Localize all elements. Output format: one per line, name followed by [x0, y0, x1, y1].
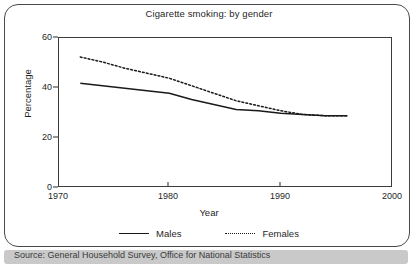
- y-axis-title: Percentage: [22, 49, 33, 139]
- plot-area: [58, 37, 392, 187]
- x-tick-label-1990: 1990: [258, 191, 302, 201]
- x-axis-title: Year: [0, 207, 418, 218]
- x-tick-label-1970: 1970: [36, 191, 80, 201]
- legend-label-females: Females: [262, 228, 298, 239]
- x-tick-label-2000: 2000: [370, 191, 414, 201]
- chart-legend: Males Females: [0, 228, 418, 239]
- source-bar: Source: General Household Survey, Office…: [4, 250, 408, 264]
- legend-entry-females: Females: [225, 228, 298, 239]
- x-tick-label-1980: 1980: [146, 191, 190, 201]
- chart-title: Cigarette smoking: by gender: [0, 8, 418, 19]
- legend-label-males: Males: [156, 228, 181, 239]
- source-text: Source: General Household Survey, Office…: [14, 250, 270, 260]
- legend-line-dotted-icon: [225, 230, 255, 237]
- legend-entry-males: Males: [119, 228, 181, 239]
- legend-line-solid-icon: [119, 230, 149, 237]
- y-tick-label-60: 60: [18, 32, 52, 42]
